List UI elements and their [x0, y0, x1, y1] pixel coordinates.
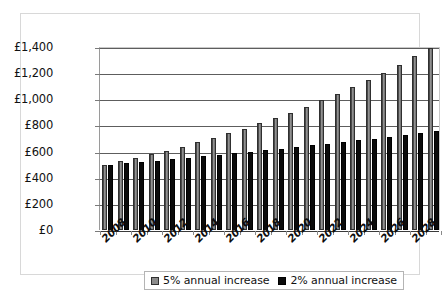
bar-2-annual-increase-2022: [325, 144, 330, 230]
bar-5-annual-increase-2021: [304, 107, 309, 230]
bar-2-annual-increase-2012: [170, 159, 175, 230]
y-tick-label: £0: [39, 223, 53, 237]
bar-2-annual-increase-2023: [341, 142, 346, 230]
bar-5-annual-increase-2028: [412, 56, 417, 230]
bar-2-annual-increase-2010: [139, 162, 144, 230]
y-tick-label: £600: [25, 145, 53, 159]
y-tick-mark: [95, 100, 100, 101]
bar-2-annual-increase-2027: [403, 135, 408, 230]
bar-2-annual-increase-2029: [434, 131, 439, 230]
bar-5-annual-increase-2012: [164, 151, 169, 230]
bar-5-annual-increase-2020: [288, 113, 293, 230]
bar-2-annual-increase-2024: [356, 140, 361, 230]
bar-2-annual-increase-2018: [263, 150, 268, 230]
bar-5-annual-increase-2025: [366, 80, 371, 230]
series-5-swatch-icon: [151, 277, 159, 285]
bar-5-annual-increase-2027: [397, 65, 402, 230]
bar-5-annual-increase-2023: [335, 94, 340, 230]
bar-5-annual-increase-2019: [273, 118, 278, 230]
bar-2-annual-increase-2021: [310, 145, 315, 230]
chart-frame: £0£200£400£600£800£1,000£1,200£1,400 200…: [20, 13, 420, 275]
bar-2-annual-increase-2028: [418, 133, 423, 230]
y-tick-label: £400: [25, 171, 53, 185]
bar-2-annual-increase-2014: [201, 156, 206, 230]
legend-entry-2-percent: 2% annual increase: [278, 274, 396, 287]
bar-2-annual-increase-2019: [279, 149, 284, 230]
chart-legend: 5% annual increase 2% annual increase: [144, 271, 404, 290]
y-tick-label: £1,000: [14, 92, 53, 106]
y-tick-mark: [95, 179, 100, 180]
bar-2-annual-increase-2017: [248, 152, 253, 230]
bar-2-annual-increase-2020: [294, 147, 299, 230]
gridline: [100, 74, 439, 75]
bar-5-annual-increase-2026: [381, 73, 386, 230]
y-tick-label: £800: [25, 118, 53, 132]
bar-5-annual-increase-2008: [102, 165, 107, 230]
bar-2-annual-increase-2026: [387, 137, 392, 230]
y-tick-label: £1,200: [14, 66, 53, 80]
gridline: [100, 48, 439, 49]
y-tick-mark: [95, 74, 100, 75]
bar-2-annual-increase-2011: [155, 161, 160, 230]
bar-5-annual-increase-2029: [428, 48, 433, 230]
y-tick-mark: [95, 205, 100, 206]
y-tick-mark: [95, 153, 100, 154]
bar-5-annual-increase-2018: [257, 123, 262, 230]
gridline: [100, 100, 439, 101]
y-tick-label: £1,400: [14, 40, 53, 54]
series-2-swatch-icon: [278, 277, 286, 285]
y-tick-mark: [95, 48, 100, 49]
bar-2-annual-increase-2008: [108, 165, 113, 230]
bar-2-annual-increase-2015: [217, 155, 222, 230]
bar-2-annual-increase-2025: [372, 139, 377, 231]
legend-entry-5-percent: 5% annual increase: [151, 274, 269, 287]
bar-2-annual-increase-2016: [232, 153, 237, 230]
plot-area: [99, 47, 440, 230]
y-tick-label: £200: [25, 197, 53, 211]
legend-label-2-percent: 2% annual increase: [290, 274, 396, 287]
bar-2-annual-increase-2013: [186, 158, 191, 230]
bar-5-annual-increase-2022: [319, 100, 324, 230]
bar-5-annual-increase-2014: [195, 142, 200, 230]
legend-label-5-percent: 5% annual increase: [163, 274, 269, 287]
gridline: [100, 126, 439, 127]
bar-5-annual-increase-2010: [133, 158, 138, 230]
bar-5-annual-increase-2016: [226, 133, 231, 230]
y-tick-mark: [95, 126, 100, 127]
bar-5-annual-increase-2024: [350, 87, 355, 230]
